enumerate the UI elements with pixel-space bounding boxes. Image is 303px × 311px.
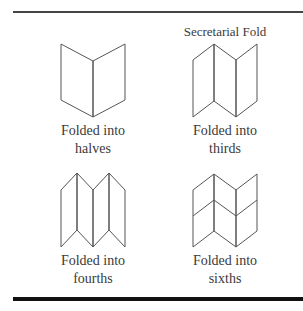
sixths-label: Folded into sixths (165, 252, 285, 288)
bottom-rule (13, 297, 303, 301)
halves-label: Folded into halves (33, 122, 153, 158)
sixths-fold-icon (193, 174, 257, 247)
fourths-fold-icon (61, 173, 125, 247)
fourths-label: Folded into fourths (33, 252, 153, 288)
halves-fold-icon (61, 44, 125, 117)
thirds-label-line1: Folded into (165, 122, 285, 140)
fourths-label-line1: Folded into (33, 252, 153, 270)
sixths-label-line2: sixths (165, 270, 285, 288)
sixths-label-line1: Folded into (165, 252, 285, 270)
thirds-label: Folded into thirds (165, 122, 285, 158)
thirds-fold-icon (193, 44, 257, 117)
halves-label-line1: Folded into (33, 122, 153, 140)
halves-label-line2: halves (33, 140, 153, 158)
fourths-label-line2: fourths (33, 270, 153, 288)
thirds-label-line2: thirds (165, 140, 285, 158)
